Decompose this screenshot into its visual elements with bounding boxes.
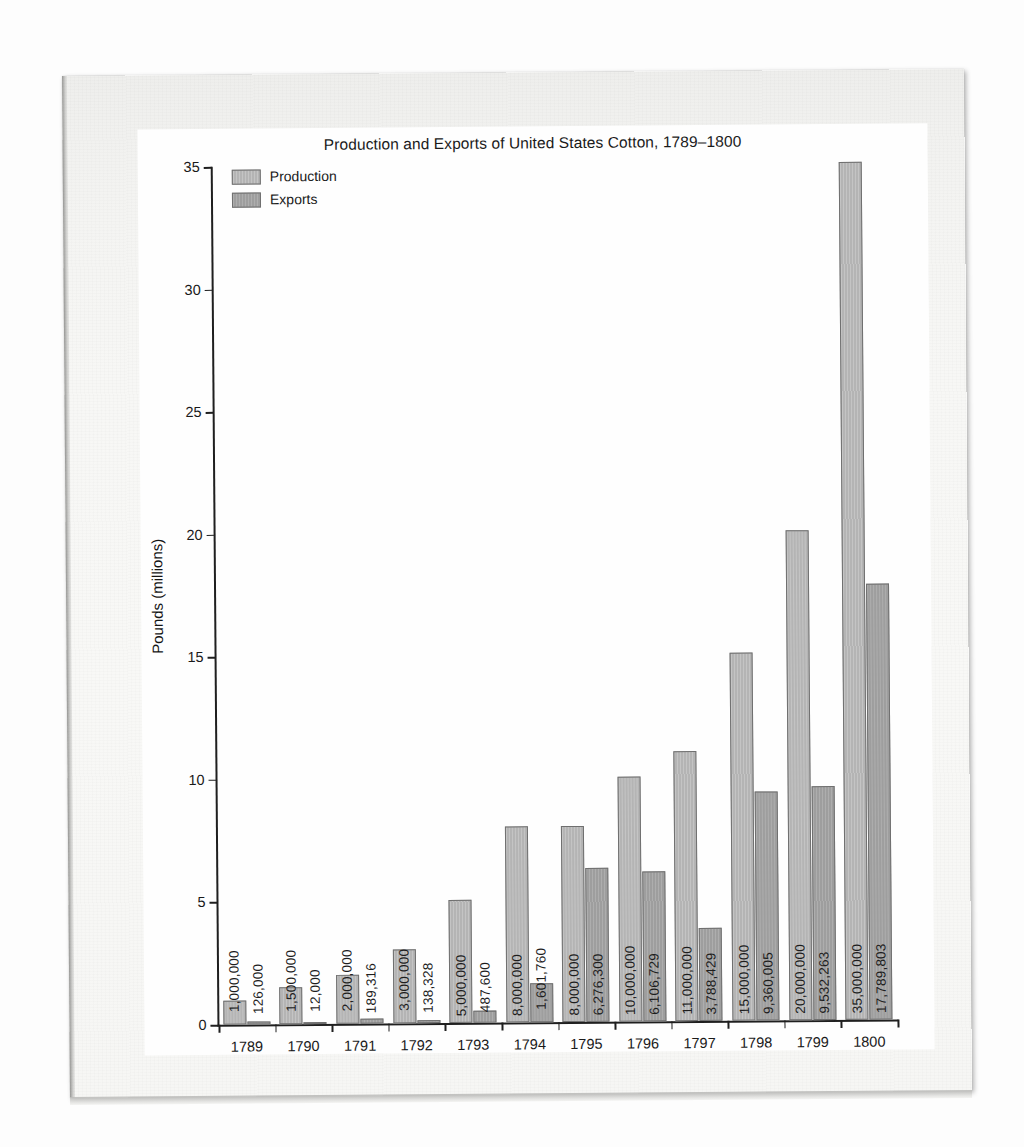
chart-title: Production and Exports of United States … (137, 131, 927, 155)
y-axis-line (211, 167, 219, 1026)
bar-exports-1797[interactable]: 3,788,429 (699, 928, 723, 1021)
y-tick-group: 05101520253035 (212, 161, 891, 166)
x-tick (841, 1020, 843, 1028)
scanned-page-sheet: Production and Exports of United States … (62, 69, 972, 1098)
bar-value-label: 10,000,000 (619, 924, 643, 1014)
y-tick (208, 657, 216, 659)
bar-value-label: 11,000,000 (675, 924, 699, 1014)
bar-value-label: 126,000 (247, 955, 271, 1021)
legend-label: Production (270, 168, 337, 185)
bar-value-label: 8,000,000 (562, 933, 586, 1015)
bar-production-1794[interactable]: 8,000,000 (505, 826, 530, 1022)
legend-item-production[interactable]: Production (232, 168, 337, 185)
bar-production-1800[interactable]: 35,000,000 (839, 162, 869, 1020)
bar-value-label: 5,000,000 (449, 934, 473, 1016)
x-tick (784, 1020, 786, 1028)
x-tick-label: 1792 (400, 1037, 432, 1053)
x-tick-label: 1794 (514, 1036, 546, 1052)
bar-exports-1791[interactable]: 189,316 (360, 1019, 383, 1024)
x-tick (558, 1022, 560, 1030)
bar-value-label: 2,000,000 (336, 939, 360, 1021)
bar-exports-1800[interactable]: 17,789,803 (866, 583, 892, 1019)
bar-exports-1799[interactable]: 9,532,263 (811, 786, 836, 1020)
bar-production-1789[interactable]: 1,000,000 (223, 1000, 246, 1025)
x-tick-label: 1799 (797, 1034, 829, 1050)
bar-production-1791[interactable]: 2,000,000 (336, 975, 359, 1024)
x-tick (728, 1021, 730, 1029)
x-tick (615, 1022, 617, 1030)
y-axis-title: Pounds (millions) (148, 539, 166, 654)
y-tick-label: 15 (187, 649, 203, 665)
y-tick (206, 412, 214, 414)
x-tick (275, 1024, 277, 1032)
bar-value-label: 1,000,000 (223, 940, 247, 1022)
bar-production-1799[interactable]: 20,000,000 (785, 530, 812, 1020)
y-tick-label: 5 (197, 894, 205, 910)
bar-value-label: 17,789,803 (869, 923, 893, 1013)
x-tick (671, 1021, 673, 1029)
x-tick (897, 1019, 899, 1027)
bar-production-1797[interactable]: 11,000,000 (674, 751, 699, 1021)
bar-chart: Production and Exports of United States … (137, 123, 934, 1055)
bar-exports-1790[interactable]: 12,000 (304, 1022, 327, 1024)
legend-swatch-icon (232, 169, 261, 184)
bar-value-label: 15,000,000 (732, 924, 756, 1014)
y-tick (210, 1025, 218, 1027)
x-tick-label: 1797 (683, 1035, 715, 1051)
y-tick-label: 0 (198, 1017, 206, 1033)
bar-exports-1792[interactable]: 138,328 (417, 1020, 440, 1024)
bar-exports-1794[interactable]: 1,601,760 (530, 983, 553, 1022)
y-tick-label: 30 (184, 281, 200, 297)
bar-value-label: 6,106,729 (643, 932, 667, 1014)
x-tick (218, 1025, 220, 1033)
bar-exports-1796[interactable]: 6,106,729 (642, 872, 666, 1022)
bar-exports-1795[interactable]: 6,276,300 (586, 868, 610, 1022)
x-tick-label: 1800 (853, 1034, 885, 1050)
bar-production-1793[interactable]: 5,000,000 (449, 900, 473, 1023)
bar-value-label: 189,316 (360, 955, 384, 1021)
legend-label: Exports (270, 191, 318, 207)
x-tick-label: 1796 (627, 1035, 659, 1051)
y-tick-label: 10 (188, 772, 204, 788)
y-tick (205, 289, 213, 291)
x-tick-label: 1790 (287, 1038, 319, 1054)
bar-value-label: 487,600 (473, 954, 497, 1020)
bar-exports-1789[interactable]: 126,000 (247, 1021, 270, 1024)
x-tick-label: 1791 (344, 1038, 376, 1054)
bar-exports-1798[interactable]: 9,360,005 (755, 791, 780, 1021)
y-tick-label: 20 (186, 527, 202, 543)
bar-production-1792[interactable]: 3,000,000 (392, 950, 416, 1024)
x-tick-label: 1795 (570, 1036, 602, 1052)
bar-value-label: 12,000 (303, 961, 326, 1019)
bar-value-label: 35,000,000 (845, 923, 869, 1013)
x-tick-group: 1789179017911792179317941795179617971798… (212, 161, 891, 166)
chart-card: Production and Exports of United States … (137, 123, 934, 1055)
bar-group: 1,000,000126,0001,500,00012,0002,000,000… (212, 161, 891, 166)
x-tick-label: 1789 (231, 1038, 263, 1054)
legend-item-exports[interactable]: Exports (232, 191, 337, 208)
bar-production-1798[interactable]: 15,000,000 (730, 653, 756, 1021)
chart-legend: ProductionExports (232, 168, 337, 215)
bar-value-label: 9,532,263 (812, 931, 836, 1013)
y-tick-label: 35 (184, 159, 200, 175)
y-tick (209, 902, 217, 904)
bar-exports-1793[interactable]: 487,600 (473, 1011, 496, 1023)
bar-production-1790[interactable]: 1,500,000 (280, 987, 303, 1024)
bar-production-1795[interactable]: 8,000,000 (561, 826, 586, 1022)
bar-value-label: 3,788,429 (699, 932, 723, 1014)
y-tick (209, 780, 217, 782)
bar-production-1796[interactable]: 10,000,000 (617, 776, 642, 1021)
y-tick (207, 535, 215, 537)
y-tick-label: 25 (185, 404, 201, 420)
x-tick (445, 1023, 447, 1031)
bar-value-label: 1,601,760 (529, 937, 553, 1019)
bar-value-label: 20,000,000 (788, 923, 812, 1013)
x-tick-label: 1798 (740, 1034, 772, 1050)
y-tick (204, 167, 212, 169)
x-tick (332, 1024, 334, 1032)
bar-value-label: 3,000,000 (392, 938, 416, 1020)
bar-value-label: 9,360,005 (756, 931, 780, 1013)
bar-value-label: 6,276,300 (586, 933, 610, 1015)
legend-swatch-icon (232, 192, 261, 207)
x-tick (388, 1023, 390, 1031)
